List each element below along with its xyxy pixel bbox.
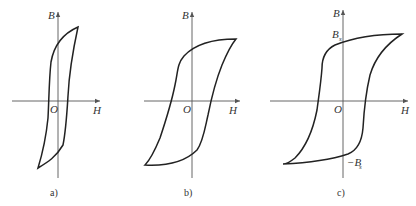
caption-b: b) [184,187,192,199]
hysteresis-loop-rectangular [283,34,402,164]
h-label-b: H [228,104,238,116]
svg-text:s: s [359,163,362,171]
panel-b: B O H b) [144,9,240,199]
h-label-c: H [400,104,410,116]
h-label-a: H [92,104,102,116]
neg-bs-label: −B s [347,156,362,171]
b-label-a: B [48,9,55,21]
origin-label-c: O [334,103,342,115]
b-label-b: B [182,9,189,21]
caption-c: c) [337,187,345,199]
caption-a: a) [50,187,58,199]
svg-text:B: B [332,28,339,40]
panel-c: B B s −B s O H c) [270,7,410,199]
origin-label-a: O [50,103,58,115]
hysteresis-figure: B O H a) B O H b) B B s −B s O H c) [0,0,416,206]
b-label-c: B [333,7,340,19]
svg-text:s: s [339,35,342,43]
origin-label-b: O [183,103,191,115]
panel-a: B O H a) [12,9,102,199]
bs-label: B s [332,28,342,43]
